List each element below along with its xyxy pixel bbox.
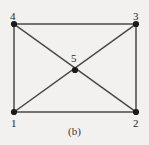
graph-node-5 xyxy=(72,67,78,73)
vertex-label-5: 5 xyxy=(71,53,77,64)
vertex-label-4: 4 xyxy=(10,11,16,22)
graph-node-2 xyxy=(133,109,139,115)
figure-caption: (b) xyxy=(0,125,149,137)
graph-node-1 xyxy=(11,109,17,115)
graph-canvas xyxy=(0,0,149,145)
vertex-label-3: 3 xyxy=(133,11,139,22)
graph-figure: 12345 (b) xyxy=(0,0,149,145)
